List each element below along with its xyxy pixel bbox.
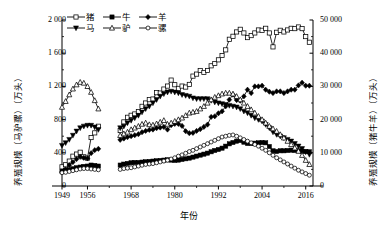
marker-filled-diamond (307, 83, 312, 88)
legend-item-驴[interactable]: 驴 (102, 23, 131, 33)
legend-item-label: 羊 (158, 12, 167, 22)
marker-filled-square (110, 15, 114, 19)
marker-open-square (264, 26, 268, 30)
marker-open-circle (264, 148, 268, 152)
legend-symbol-open-triangle-up (102, 23, 122, 33)
marker-open-square (267, 31, 271, 35)
marker-open-square (304, 35, 308, 39)
marker-open-square (89, 135, 93, 139)
marker-open-square (74, 15, 78, 19)
marker-open-square (231, 34, 235, 38)
legend-item-label: 猪 (86, 12, 95, 22)
marker-open-square (242, 31, 246, 35)
marker-filled-diamond (146, 14, 151, 19)
legend-symbol-filled-square (102, 12, 122, 22)
legend-marker-group (74, 15, 78, 19)
legend-marker-group (110, 15, 114, 19)
legend-symbol-filled-diamond (138, 12, 158, 22)
marker-open-square (271, 45, 275, 49)
marker-open-square (300, 27, 304, 31)
legend-row: 马驴骡 (66, 23, 167, 33)
marker-filled-square (267, 144, 271, 148)
marker-open-triangle-up (63, 99, 68, 104)
legend-item-猪[interactable]: 猪 (66, 12, 95, 22)
marker-open-triangle-up (59, 104, 64, 109)
marker-open-square (205, 68, 209, 72)
chart-legend: 猪牛羊马驴骡 (66, 12, 167, 33)
marker-open-triangle-up (92, 98, 97, 103)
marker-open-triangle-up (143, 120, 148, 125)
legend-item-label: 驴 (122, 23, 131, 33)
marker-filled-triangle-down (59, 143, 64, 148)
legend-item-骡[interactable]: 骡 (138, 23, 167, 33)
legend-symbol-open-square (66, 12, 86, 22)
marker-open-square (165, 84, 169, 88)
marker-open-square (220, 53, 224, 57)
marker-open-triangle-up (161, 118, 166, 123)
legend-marker-group (146, 14, 151, 19)
marker-open-square (216, 58, 220, 62)
legend-marker-group (146, 26, 150, 30)
legend-item-label: 骡 (158, 23, 167, 33)
legend-row: 猪牛羊 (66, 12, 167, 22)
marker-open-circle (96, 168, 100, 172)
marker-open-square (169, 78, 173, 82)
marker-open-circle (146, 26, 150, 30)
legend-item-label: 马 (86, 23, 95, 33)
marker-open-circle (307, 173, 311, 177)
legend-item-牛[interactable]: 牛 (102, 12, 131, 22)
marker-open-square (307, 40, 311, 44)
marker-open-square (187, 82, 191, 86)
marker-open-square (224, 48, 228, 52)
marker-open-triangle-up (89, 89, 94, 94)
marker-open-square (93, 131, 97, 135)
marker-open-triangle-up (67, 92, 72, 97)
marker-open-triangle-up (96, 106, 101, 111)
marker-open-circle (271, 153, 275, 157)
series-mule (60, 133, 311, 177)
legend-symbol-filled-triangle-down (66, 23, 86, 33)
legend-symbol-open-circle (138, 23, 158, 33)
marker-open-square (78, 150, 82, 154)
legend-item-label: 牛 (122, 12, 131, 22)
legend-item-马[interactable]: 马 (66, 23, 95, 33)
marker-open-circle (267, 151, 271, 155)
legend-item-羊[interactable]: 羊 (138, 12, 167, 22)
marker-filled-triangle-down (307, 152, 312, 157)
